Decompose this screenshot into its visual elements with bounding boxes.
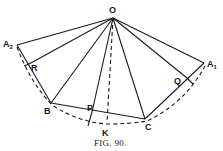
- line-O-A1: [113, 18, 204, 63]
- label-K: K: [102, 128, 109, 138]
- label-P: P: [87, 103, 93, 113]
- label-C: C: [145, 122, 152, 132]
- line-O-Q: [113, 18, 187, 78]
- line-O-C: [113, 18, 145, 119]
- tick-Q: [187, 78, 193, 84]
- tick-P: [88, 112, 92, 126]
- line-O-R: [29, 18, 113, 64]
- figure-caption: FIG. 90.: [94, 138, 127, 148]
- line-O-A2: [17, 18, 113, 45]
- label-O: O: [109, 5, 116, 15]
- chord-B-C: [51, 103, 145, 119]
- chord-C-A1: [145, 63, 204, 119]
- label-A2: A2: [3, 39, 14, 50]
- label-Q: Q: [174, 76, 181, 86]
- label-A1: A1: [207, 59, 218, 70]
- chord-A2-B: [17, 45, 51, 103]
- label-B: B: [44, 106, 51, 116]
- label-R: R: [31, 63, 38, 73]
- figure-90-diagram: O A2 R B P K C Q A1 FIG. 90.: [0, 0, 223, 151]
